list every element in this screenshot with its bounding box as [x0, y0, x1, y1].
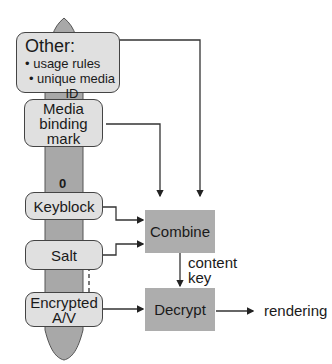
decrypt-label: Decrypt: [154, 301, 206, 318]
encrypted-line-1: Encrypted: [30, 295, 98, 310]
mark-line-3: mark: [47, 131, 80, 146]
content-key-line-2: key: [188, 270, 237, 285]
other-node: Other: • usage rules • unique media ID •…: [16, 32, 120, 93]
arrow-salt-to-combine: [100, 244, 143, 255]
content-key-label: content key: [188, 255, 237, 285]
keyblock-node: Keyblock: [25, 192, 103, 220]
combine-label: Combine: [150, 223, 210, 240]
salt-node: Salt: [25, 240, 103, 270]
encrypted-line-2: A/V: [52, 310, 76, 325]
rendering-label: rendering: [264, 303, 327, 318]
salt-label: Salt: [51, 248, 77, 263]
media-binding-mark-node: Media binding mark: [24, 99, 103, 147]
mark-line-2: binding: [39, 116, 87, 131]
decrypt-box: Decrypt: [145, 288, 215, 331]
other-bullet-media-id: • unique media ID: [25, 71, 119, 101]
arrow-other-to-combine: [118, 40, 200, 196]
other-bullet-usage-rules: • usage rules: [25, 56, 100, 71]
zero-marker: 0: [59, 176, 66, 191]
content-key-line-1: content: [188, 255, 237, 270]
arrow-mark-to-combine: [106, 124, 160, 196]
other-title: Other:: [25, 37, 75, 56]
mark-line-1: Media: [43, 101, 84, 116]
encrypted-av-node: Encrypted A/V: [25, 292, 103, 327]
arrow-keyblock-to-combine: [102, 207, 143, 220]
keyblock-label: Keyblock: [34, 199, 95, 214]
combine-box: Combine: [145, 210, 215, 253]
